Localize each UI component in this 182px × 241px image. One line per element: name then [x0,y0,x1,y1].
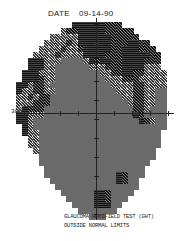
axis-tick [94,195,99,196]
axis-tick [168,111,169,116]
axis-tick [94,157,99,158]
eccentricity-label: 30° [11,108,22,115]
date-label: DATE [48,9,70,18]
greyscale-visual-field-map [22,22,172,218]
field-cell [122,196,128,202]
horizontal-meridian-axis [22,113,174,114]
axis-tick [94,43,99,44]
field-cell [139,172,145,178]
ght-test-name: GLAUCOMA HEMIFIELD TEST (GHT) [64,213,154,220]
ght-outcome: OUTSIDE NORMAL LIMITS [64,222,129,229]
field-cell [155,142,161,148]
axis-tick [114,111,115,116]
date-value: 09-14-90 [79,9,113,18]
axis-tick [24,111,25,116]
axis-tick [78,111,79,116]
field-cell [128,190,134,196]
test-date: DATE09-14-90 [48,9,122,18]
axis-tick [94,62,99,63]
field-cell [144,160,150,166]
axis-tick [60,111,61,116]
field-cell [133,184,139,190]
axis-tick [42,111,43,116]
axis-tick [150,111,151,116]
axis-tick [94,119,99,120]
axis-tick [94,176,99,177]
field-cell [116,202,122,208]
field-cell [150,154,156,160]
axis-tick [94,100,99,101]
axis-tick [94,24,99,25]
axis-tick [132,111,133,116]
field-cell [161,124,167,130]
axis-tick [94,138,99,139]
axis-tick [94,81,99,82]
axis-tick [96,111,97,116]
